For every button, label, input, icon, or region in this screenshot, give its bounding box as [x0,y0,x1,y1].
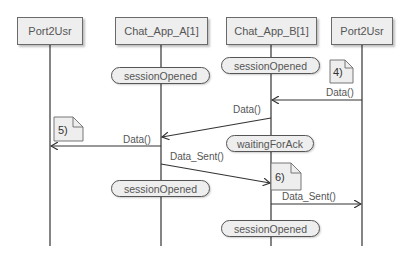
state-label: sessionOpened [124,183,197,195]
state-session-opened-b-1: sessionOpened [221,57,320,74]
state-label: sessionOpened [234,60,307,72]
message-label-3: Data() [123,134,151,145]
state-session-opened-a-1: sessionOpened [111,67,210,84]
sequence-diagram: Port2Usr Chat_App_A[1] Chat_App_B[1] Por… [0,0,418,258]
participant-label: Port2Usr [28,25,71,37]
participant-label: Chat_App_A[1] [124,25,199,37]
state-waiting-for-ack: waitingForAck [226,135,314,152]
message-label-2: Data() [233,104,261,115]
participant-chat-app-b: Chat_App_B[1] [226,17,317,45]
message-label-4: Data_Sent() [170,151,224,162]
note-6-label: 6) [275,171,285,183]
state-session-opened-a-2: sessionOpened [111,180,210,197]
state-label: sessionOpened [234,223,307,235]
participant-label: Port2Usr [340,25,383,37]
participant-chat-app-a: Chat_App_A[1] [115,17,208,45]
participant-port2usr-left: Port2Usr [17,17,83,45]
note-4-label: 4) [333,66,343,78]
participant-port2usr-right: Port2Usr [331,17,393,45]
message-label-5: Data_Sent() [282,191,336,202]
state-label: sessionOpened [124,70,197,82]
state-session-opened-b-2: sessionOpened [221,220,320,237]
state-label: waitingForAck [237,138,303,150]
message-label-1: Data() [326,87,354,98]
note-5-label: 5) [58,124,68,136]
participant-label: Chat_App_B[1] [234,25,309,37]
